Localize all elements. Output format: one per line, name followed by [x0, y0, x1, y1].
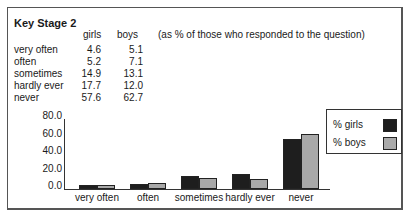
y-tick-label: 60.0 — [30, 128, 62, 139]
cell-label: very often — [14, 44, 58, 55]
col-header-boys: boys — [117, 29, 138, 40]
x-tick-label: never — [266, 192, 336, 203]
cell-boys: 13.1 — [106, 68, 143, 79]
cell-boys: 7.1 — [106, 56, 143, 67]
bar-girls — [130, 184, 148, 189]
cell-boys: 12.0 — [106, 80, 143, 91]
cell-girls: 5.2 — [64, 56, 101, 67]
x-axis — [64, 189, 330, 190]
bar-girls — [79, 185, 97, 189]
legend-swatch-girls — [383, 119, 397, 132]
bar-girls — [232, 174, 250, 189]
y-axis — [64, 119, 65, 189]
y-tick-label: 20.0 — [30, 163, 62, 174]
bar-boys — [97, 185, 115, 189]
cell-label: often — [14, 56, 36, 67]
bar-boys — [250, 179, 268, 190]
cell-girls: 4.6 — [64, 44, 101, 55]
cell-girls: 57.6 — [64, 92, 101, 103]
table-row: never57.662.7 — [14, 92, 144, 104]
table-row: sometimes14.913.1 — [14, 68, 144, 80]
legend: % girls % boys — [326, 109, 402, 154]
chart-title: Key Stage 2 — [14, 17, 76, 29]
y-tick-label: 80.0 — [30, 110, 62, 121]
bar-boys — [199, 178, 217, 189]
table-note: (as % of those who responded to the ques… — [158, 29, 365, 40]
cell-boys: 62.7 — [106, 92, 143, 103]
bar-girls — [181, 176, 199, 189]
cell-boys: 5.1 — [106, 44, 143, 55]
table-row: very often4.65.1 — [14, 44, 144, 56]
legend-swatch-boys — [383, 137, 397, 150]
bar-boys — [301, 134, 319, 189]
y-tick-label: 40.0 — [30, 145, 62, 156]
cell-girls: 14.9 — [64, 68, 101, 79]
legend-label-girls: % girls — [333, 119, 363, 130]
table-row: often5.27.1 — [14, 56, 144, 68]
col-header-girls: girls — [83, 29, 101, 40]
table-row: hardly ever17.712.0 — [14, 80, 144, 92]
cell-girls: 17.7 — [64, 80, 101, 91]
cell-label: hardly ever — [14, 80, 63, 91]
legend-label-boys: % boys — [333, 137, 366, 148]
cell-label: sometimes — [14, 68, 62, 79]
cell-label: never — [14, 92, 39, 103]
y-tick-label: 0.0 — [30, 180, 62, 191]
bar-boys — [148, 183, 166, 189]
bar-girls — [283, 139, 301, 189]
